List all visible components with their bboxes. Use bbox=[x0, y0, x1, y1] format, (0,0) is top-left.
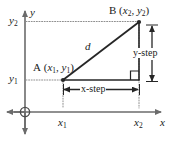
right-angle-square-icon bbox=[131, 71, 140, 80]
x-tick-label-x2: x2 bbox=[134, 117, 143, 129]
y-tick-label-y2: y2 bbox=[9, 15, 18, 27]
hypotenuse-distance-label: d bbox=[85, 41, 91, 52]
y-tick-label-y1: y1 bbox=[9, 73, 18, 85]
y-step-label: y-step bbox=[132, 48, 158, 58]
point-B-close-paren: ) bbox=[146, 4, 150, 16]
x1-sub: 1 bbox=[63, 121, 67, 130]
x-axis-label: x bbox=[160, 117, 165, 128]
x2-sub: 2 bbox=[139, 121, 143, 130]
point-B-label: B (x2, y2) bbox=[109, 5, 149, 17]
point-A-name: A bbox=[33, 61, 41, 73]
x-tick-label-x1: x1 bbox=[58, 117, 67, 129]
point-A-marker bbox=[61, 78, 65, 82]
y-axis-label: y bbox=[30, 7, 35, 18]
point-B-marker bbox=[137, 20, 141, 24]
distance-formula-diagram: y x y2 y1 x1 x2 A (x1, y1) B (x2, y2) d … bbox=[0, 0, 174, 141]
y1-sub: 1 bbox=[14, 77, 18, 86]
diagram-canvas bbox=[0, 0, 174, 141]
point-A-close-paren: ) bbox=[70, 61, 74, 73]
x-step-label: x-step bbox=[80, 84, 106, 94]
hypotenuse-segment-AB bbox=[63, 22, 139, 80]
point-A-label: A (x1, y1) bbox=[33, 62, 74, 74]
y2-sub: 2 bbox=[14, 19, 18, 28]
